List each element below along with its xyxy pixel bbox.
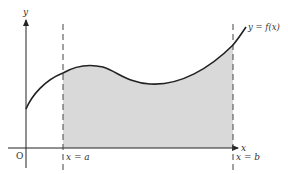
bound-label-b: x = b [236, 152, 260, 162]
y-axis-label: y [22, 7, 29, 17]
origin-label: O [16, 151, 23, 161]
curve-label: y = f(x) [247, 22, 280, 32]
bound-label-a: x = a [66, 152, 90, 162]
area-under-curve-diagram: y x O y = f(x) x = a x = b [0, 0, 288, 174]
shaded-region [63, 45, 233, 148]
